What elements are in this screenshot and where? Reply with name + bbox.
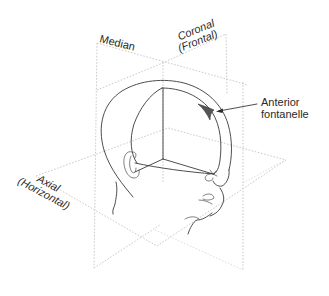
anatomical-planes-diagram: Median Coronal (Frontal) Axial (Horizont… xyxy=(0,0,329,296)
axial-plane xyxy=(36,128,286,246)
median-plane xyxy=(94,43,248,268)
anterior-fontanelle xyxy=(198,104,214,120)
fontanelle-label-line2: fontanelle xyxy=(261,108,309,120)
fontanelle-label: Anterior xyxy=(261,96,300,108)
fontanelle-arrow xyxy=(216,104,257,113)
median-plane-label: Median xyxy=(99,32,137,52)
arrowhead-icon xyxy=(216,109,223,114)
infant-head xyxy=(101,80,231,234)
